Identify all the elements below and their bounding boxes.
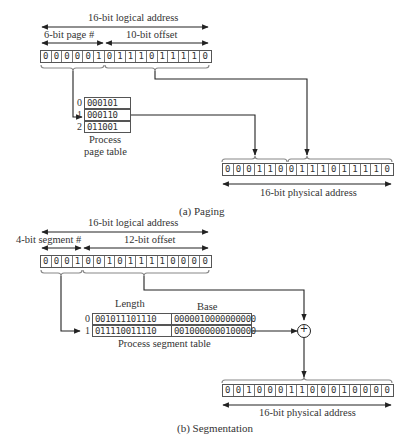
bit: 0 [244, 164, 255, 175]
bit: 1 [179, 51, 190, 62]
bit: 0 [83, 256, 94, 267]
segment-table-length-header: Length [115, 298, 145, 309]
bit: 0 [179, 256, 190, 267]
segment-base: 0010000000100000 [172, 325, 252, 337]
page-table-caption-line2: page table [84, 146, 127, 157]
bit: 1 [136, 256, 147, 267]
bit: 0 [41, 51, 52, 62]
page-table-row: 0 000101 [72, 97, 131, 109]
bit: 1 [94, 51, 105, 62]
seg-offset-label: 12-bit offset [124, 234, 175, 245]
bit: 0 [105, 51, 116, 62]
segmentation-caption: (b) Segmentation [177, 422, 253, 434]
segment-table-row: 0 001011101110 0000010000000000 [80, 313, 252, 325]
bit: 0 [41, 256, 52, 267]
bit: 1 [147, 256, 158, 267]
bit: 0 [276, 164, 287, 175]
bit: 1 [115, 51, 126, 62]
bit: 1 [350, 164, 361, 175]
seg-physical-address-label: 16-bit physical address [259, 407, 356, 418]
bit: 1 [361, 164, 372, 175]
bit: 0 [287, 164, 298, 175]
page-table-frame: 011001 [84, 121, 131, 133]
bit: 0 [223, 385, 234, 396]
bit: 0 [147, 51, 158, 62]
paging-logical-address-label: 16-bit logical address [88, 12, 178, 23]
segment-length: 011110011110 [92, 325, 172, 337]
page-table-caption-line1: Process [89, 134, 121, 145]
bit: 0 [52, 256, 63, 267]
bit: 1 [73, 256, 84, 267]
bit: 1 [340, 385, 351, 396]
page-table-index: 1 [72, 109, 84, 121]
paging-physical-address-label: 16-bit physical address [260, 187, 357, 198]
segment-table-index: 1 [80, 325, 92, 337]
bit: 0 [234, 164, 245, 175]
bit: 0 [73, 51, 84, 62]
bit: 1 [265, 164, 276, 175]
bit: 0 [350, 385, 361, 396]
segment-table-caption: Process segment table [118, 338, 211, 349]
bit: 0 [115, 256, 126, 267]
segment-length: 001011101110 [92, 313, 172, 325]
bit: 0 [223, 164, 234, 175]
bit: 0 [276, 385, 287, 396]
bit: 0 [200, 256, 211, 267]
paging-offset-label: 10-bit offset [126, 29, 177, 40]
bit: 1 [340, 164, 351, 175]
bit: 0 [62, 51, 73, 62]
paging-logical-address-bits: 0 0 0 0 0 1 0 1 1 1 0 1 1 1 1 0 [40, 50, 212, 63]
bit: 1 [105, 256, 116, 267]
bit: 1 [371, 164, 382, 175]
page-table-frame: 000101 [84, 97, 131, 109]
bit: 0 [329, 164, 340, 175]
bit: 1 [318, 164, 329, 175]
paging-caption: (a) Paging [179, 205, 225, 217]
paging-page-number-label: 6-bit page # [44, 29, 94, 40]
bit: 1 [126, 256, 137, 267]
page-table-row: 1 000110 [72, 109, 131, 121]
bit: 1 [168, 51, 179, 62]
bit: 1 [297, 164, 308, 175]
bit: 0 [94, 256, 105, 267]
seg-segment-number-label: 4-bit segment # [16, 234, 81, 245]
diagram-connectors [0, 0, 406, 441]
bit: 0 [382, 385, 393, 396]
bit: 1 [255, 164, 266, 175]
bit: 0 [382, 164, 393, 175]
segment-table-base-header: Base [197, 301, 217, 312]
bit: 0 [83, 51, 94, 62]
bit: 1 [158, 51, 169, 62]
bit: 1 [136, 51, 147, 62]
bit: 0 [318, 385, 329, 396]
bit: 0 [308, 385, 319, 396]
bit: 1 [244, 385, 255, 396]
bit: 0 [168, 256, 179, 267]
bit: 1 [158, 256, 169, 267]
page-table-row: 2 011001 [72, 121, 131, 133]
segment-base: 0000010000000000 [172, 313, 252, 325]
paging-physical-address-bits: 0 0 0 1 1 0 0 1 1 1 0 1 1 1 1 0 [222, 163, 394, 176]
bit: 0 [371, 385, 382, 396]
bit: 0 [62, 256, 73, 267]
bit: 0 [265, 385, 276, 396]
bit: 0 [255, 385, 266, 396]
bit: 1 [287, 385, 298, 396]
seg-logical-address-label: 16-bit logical address [88, 217, 178, 228]
page-table-index: 2 [72, 121, 84, 133]
bit: 0 [52, 51, 63, 62]
bit: 1 [189, 51, 200, 62]
bit: 0 [361, 385, 372, 396]
bit: 1 [297, 385, 308, 396]
page-table-frame: 000110 [84, 109, 131, 121]
seg-logical-address-bits: 0 0 0 1 0 0 1 0 1 1 1 1 0 0 0 0 [40, 255, 212, 268]
bit: 0 [200, 51, 211, 62]
bit: 0 [329, 385, 340, 396]
bit: 1 [308, 164, 319, 175]
page-table-index: 0 [72, 97, 84, 109]
seg-physical-address-bits: 0 0 1 0 0 0 1 1 0 0 0 1 0 0 0 0 [222, 384, 394, 397]
segment-table-index: 0 [80, 313, 92, 325]
segment-table-row: 1 011110011110 0010000000100000 [80, 325, 252, 337]
bit: 0 [189, 256, 200, 267]
adder-plus-icon: + [299, 323, 309, 334]
